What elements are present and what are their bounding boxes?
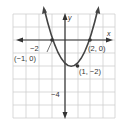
tick-label-y-neg4: −4 (51, 90, 60, 99)
parabola-graph: x y −2 −4 (−1, 0) (2, 0) (1, −2) (0, 0, 124, 127)
grid (13, 14, 115, 118)
tick-label-x-neg2: −2 (30, 44, 39, 53)
x-axis-arrow-right-icon (106, 38, 113, 43)
leader-line (47, 41, 52, 52)
curve-arrow-left-icon (42, 6, 47, 14)
point-label-2-0: (2, 0) (88, 44, 106, 53)
curve-arrow-right-icon (95, 6, 100, 14)
x-axis-arrow-left-icon (16, 38, 23, 43)
point-label-neg1-0: (−1, 0) (14, 54, 36, 63)
y-axis-label: y (67, 14, 72, 22)
point-label-1-neg2: (1, −2) (79, 67, 101, 76)
point-2-0 (88, 38, 92, 42)
graph-svg: x y −2 −4 (−1, 0) (2, 0) (1, −2) (0, 0, 124, 127)
x-axis-label: x (106, 30, 111, 37)
